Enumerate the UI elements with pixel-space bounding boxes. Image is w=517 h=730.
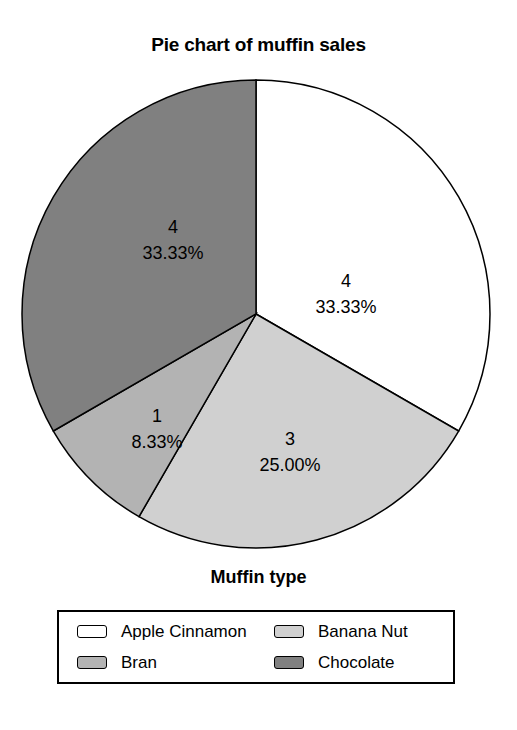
slice-percent-label: 8.33% [131, 432, 182, 452]
pie-slice-group [22, 80, 490, 548]
slice-value-label: 4 [341, 271, 351, 291]
legend-item-label: Banana Nut [318, 622, 408, 642]
chart-title: Pie chart of muffin sales [0, 33, 517, 57]
legend-item-label: Bran [121, 653, 157, 673]
legend-item-chocolate[interactable]: Chocolate [256, 653, 453, 673]
pie-svg: 433.33%325.00%18.33%433.33% [16, 74, 496, 554]
slice-value-label: 4 [168, 217, 178, 237]
legend: Apple Cinnamon Banana Nut Bran Chocolate [57, 610, 455, 684]
legend-grid: Apple Cinnamon Banana Nut Bran Chocolate [59, 612, 453, 682]
legend-item-label: Apple Cinnamon [121, 622, 247, 642]
legend-swatch-icon [274, 656, 304, 669]
slice-value-label: 3 [285, 429, 295, 449]
legend-item-label: Chocolate [318, 653, 395, 673]
slice-percent-label: 33.33% [315, 297, 376, 317]
legend-swatch-icon [77, 625, 107, 638]
legend-swatch-icon [77, 656, 107, 669]
legend-item-bran[interactable]: Bran [59, 653, 256, 673]
pie-plot-area: 433.33%325.00%18.33%433.33% [16, 74, 496, 554]
legend-item-banana-nut[interactable]: Banana Nut [256, 622, 453, 642]
pie-chart-figure: Pie chart of muffin sales 433.33%325.00%… [0, 0, 517, 730]
slice-value-label: 1 [152, 406, 162, 426]
slice-percent-label: 33.33% [142, 243, 203, 263]
legend-item-apple-cinnamon[interactable]: Apple Cinnamon [59, 622, 256, 642]
x-axis-label: Muffin type [0, 566, 517, 588]
slice-percent-label: 25.00% [259, 455, 320, 475]
legend-swatch-icon [274, 625, 304, 638]
